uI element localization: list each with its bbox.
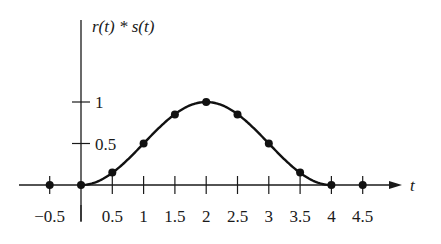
- data-point: [234, 110, 242, 118]
- x-tick-label: 2: [202, 207, 211, 226]
- data-point: [296, 169, 304, 177]
- x-axis-label: t: [410, 176, 416, 195]
- x-tick-label: 3.5: [289, 207, 310, 226]
- x-tick-label: −0.5: [34, 207, 65, 226]
- y-tick-labels: 0.51: [95, 93, 116, 154]
- convolution-chart: r(t) * s(t) t −0.50.511.522.533.544.5 0.…: [0, 0, 441, 244]
- data-point: [140, 140, 148, 148]
- y-tick-label: 0.5: [95, 135, 116, 154]
- data-point: [77, 181, 85, 189]
- y-tick-label: 1: [95, 93, 104, 112]
- data-markers: [46, 98, 367, 189]
- data-point: [46, 181, 54, 189]
- data-point: [359, 181, 367, 189]
- x-tick-label: 1: [139, 207, 148, 226]
- x-tick-labels: −0.50.511.522.533.544.5: [34, 207, 373, 226]
- data-point: [108, 169, 116, 177]
- x-tick-label: 1.5: [164, 207, 185, 226]
- x-tick-label: 3: [265, 207, 274, 226]
- x-tick-label: 2.5: [227, 207, 248, 226]
- x-tick-label: 0.5: [102, 207, 123, 226]
- data-curve: [81, 102, 331, 185]
- data-point: [265, 140, 273, 148]
- x-tick-label: 4.5: [352, 207, 373, 226]
- data-point: [171, 110, 179, 118]
- data-point: [202, 98, 210, 106]
- x-axis-arrow-icon: [389, 181, 402, 189]
- data-point: [327, 181, 335, 189]
- y-axis-label: r(t) * s(t): [92, 17, 155, 36]
- x-tick-label: 4: [327, 207, 336, 226]
